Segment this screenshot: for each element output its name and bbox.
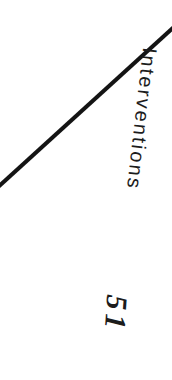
- page-number: 51: [100, 294, 133, 334]
- scanned-page-fragment: Interventions 51: [0, 0, 172, 380]
